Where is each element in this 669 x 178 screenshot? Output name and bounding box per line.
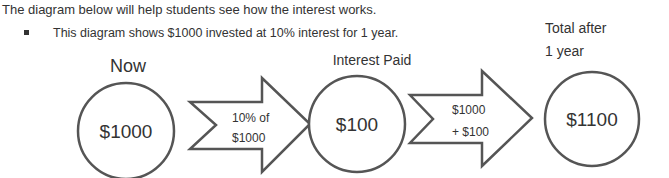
- interest-diagram: Now $1000 10% of $1000 Interest Paid $10…: [0, 0, 669, 178]
- stage-heading-total-line1: Total after: [545, 20, 607, 36]
- arrow-icon: [410, 71, 532, 166]
- arrow-label-1-line1: 10% of: [232, 111, 270, 125]
- stage-heading-total-line2: 1 year: [545, 43, 584, 59]
- stage-heading-now: Now: [110, 56, 147, 76]
- stage-value-interest: $100: [336, 114, 378, 135]
- stage-value-now: $1000: [100, 121, 153, 142]
- stage-heading-interest: Interest Paid: [333, 52, 412, 68]
- arrow-icon: [190, 78, 310, 172]
- stage-value-total: $1100: [566, 109, 617, 130]
- arrow-label-2-line1: $1000: [452, 103, 486, 117]
- arrow-label-2-line2: + $100: [452, 125, 489, 139]
- arrow-label-1-line2: $1000: [232, 131, 266, 145]
